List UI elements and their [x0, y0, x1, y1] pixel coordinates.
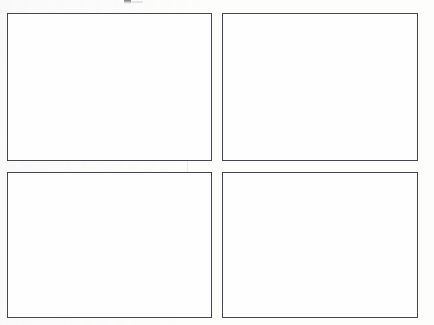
- figure-panel-top-right-content: [223, 14, 417, 160]
- figure-panel-top-right: [222, 13, 418, 161]
- figure-panel-bottom-right-content: [223, 173, 417, 317]
- clipped-text-remnant: [124, 0, 131, 4]
- figure-panel-top-left: [7, 13, 212, 161]
- figure-panel-top-left-content: [8, 14, 211, 160]
- figure-panel-bottom-right: [222, 172, 418, 318]
- scanned-page: [0, 0, 434, 325]
- figure-panel-bottom-left: [7, 172, 212, 318]
- clipped-text-remnant-secondary: [131, 1, 143, 3]
- figure-panel-bottom-left-content: [8, 173, 211, 317]
